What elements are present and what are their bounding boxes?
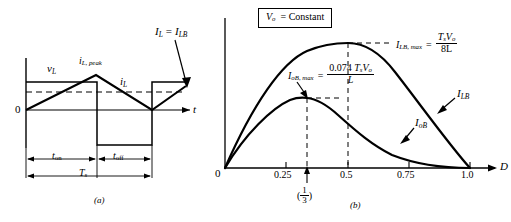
- ts-arrow-left: [27, 174, 34, 179]
- panel-a-origin-label: 0: [15, 104, 21, 115]
- iob-curve-label: IoB: [415, 117, 427, 129]
- panel-a-caption: (a): [94, 196, 105, 205]
- x-tick-label-0p75: 0.75: [397, 170, 415, 180]
- x-tick-label-0p5: 0.5: [340, 170, 353, 180]
- t-on-arrow-right: [89, 157, 96, 162]
- one-third-tick-label: (13): [297, 186, 312, 205]
- t-off-arrow-left: [98, 157, 105, 162]
- x-tick-label-1p0: 1.0: [461, 170, 474, 180]
- ilb-curve-label: ILB: [457, 88, 469, 100]
- peak-current-label: iL, peak: [79, 56, 102, 67]
- t-on-label: ton: [52, 151, 62, 162]
- panel-b-origin-label: 0: [215, 168, 221, 179]
- panel-b-caption: (b): [350, 201, 361, 210]
- switching-period-label: Ts: [79, 168, 87, 179]
- x-tick-one-third-arrowhead: [304, 166, 310, 174]
- time-axis-label: t: [193, 104, 196, 115]
- inductor-current-label: iL: [120, 76, 127, 88]
- t-off-arrow-right: [144, 157, 151, 162]
- average-current-leader-line: [175, 40, 186, 82]
- t-on-arrow-left: [27, 157, 34, 162]
- iob-label-leader-arrowhead: [400, 135, 410, 144]
- t-off-label: toff: [113, 151, 124, 162]
- duty-ratio-axis-label: D: [500, 161, 508, 172]
- panel-b-x-axis-arrowhead: [488, 165, 497, 172]
- ts-arrow-right: [144, 174, 151, 179]
- average-current-equation-label: IL=ILB: [155, 26, 187, 38]
- iob-max-annotation: IoB, max=0.074 TsVoL: [288, 63, 374, 85]
- x-tick-label-0p25: 0.25: [274, 170, 292, 180]
- ilb-max-annotation: ILB, max=TsVo8L: [396, 32, 457, 54]
- condition-box: Vo= Constant: [258, 8, 332, 28]
- panel-a-time-axis-arrowhead: [182, 107, 190, 113]
- inductor-voltage-label: vL: [47, 63, 56, 75]
